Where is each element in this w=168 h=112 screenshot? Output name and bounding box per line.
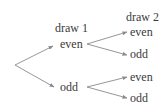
node-draw2-even-odd: odd: [130, 48, 148, 60]
node-draw1-odd: odd: [60, 81, 78, 93]
branch-odd-odd: [87, 87, 127, 98]
node-draw2-odd-even: even: [130, 71, 153, 83]
header-draw-1: draw 1: [55, 22, 88, 34]
branch-odd-even: [87, 77, 127, 87]
branch-even-odd: [87, 44, 127, 55]
tree-diagram: draw 1 draw 2 even odd even odd even odd: [0, 0, 168, 112]
node-draw2-odd-odd: odd: [130, 92, 148, 104]
branch-root-even: [15, 46, 53, 65]
node-draw2-even-even: even: [130, 26, 153, 38]
node-draw1-even: even: [60, 38, 83, 50]
branch-even-even: [87, 32, 127, 44]
branch-root-odd: [15, 65, 54, 87]
header-draw-2: draw 2: [126, 11, 159, 23]
